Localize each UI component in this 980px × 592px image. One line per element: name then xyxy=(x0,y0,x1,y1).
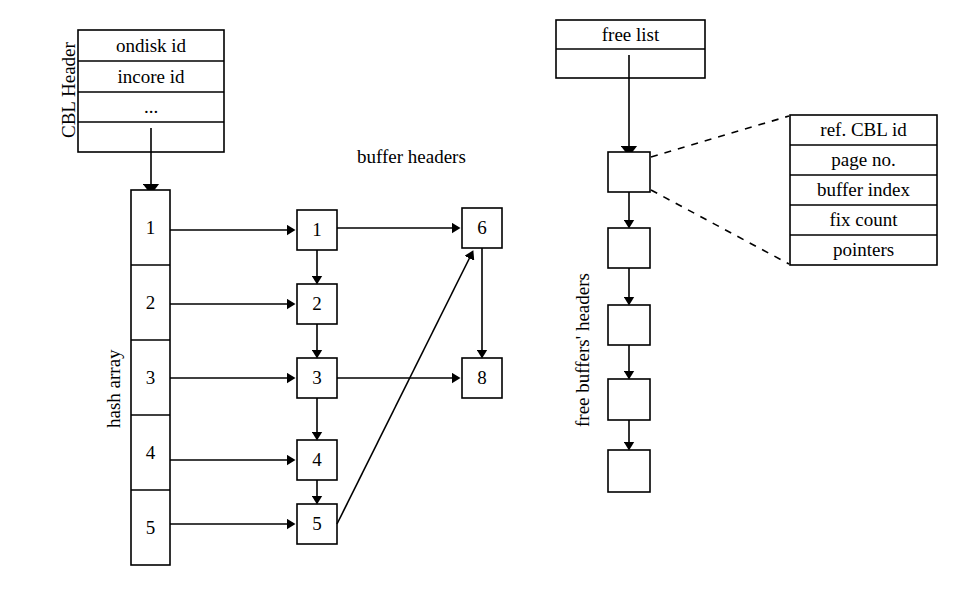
free-buffer-node-3 xyxy=(608,305,650,345)
buffer-detail-row-fix-count: fix count xyxy=(790,205,937,235)
free-list-pointer-row xyxy=(556,49,705,78)
hash-to-buffer-arrows xyxy=(170,230,288,524)
buffer-header-node-2: 2 xyxy=(297,284,337,324)
hash-array-cell-4: 4 xyxy=(131,415,170,490)
buffer-detail-row-ref-cbl-id: ref. CBL id xyxy=(790,115,937,145)
free-list-title: free list xyxy=(556,20,705,49)
buffer-headers-section-label: buffer headers xyxy=(357,146,466,168)
free-buffers-headers-side-label: free buffers' headers xyxy=(572,273,594,427)
cbl-header-side-label: CBL Header xyxy=(58,42,80,138)
buffer-header-node-8: 8 xyxy=(462,358,502,398)
hash-array-cell-5: 5 xyxy=(131,490,170,565)
cbl-header-row-incore-id: incore id xyxy=(78,61,224,92)
cbl-header-row-ellipsis: ... xyxy=(78,92,224,122)
buffer-detail-row-page-no: page no. xyxy=(790,145,937,175)
hash-array-cell-1: 1 xyxy=(131,190,170,265)
free-buffer-node-1 xyxy=(608,152,650,192)
buffer-header-node-4: 4 xyxy=(297,440,337,480)
hash-array-cell-3: 3 xyxy=(131,340,170,415)
diagram-canvas: CBL Header ondisk id incore id ... hash … xyxy=(0,0,980,592)
buffer-header-node-1: 1 xyxy=(297,210,337,250)
hash-array-cell-2: 2 xyxy=(131,265,170,340)
cbl-header-row-ondisk-id: ondisk id xyxy=(78,30,224,61)
buffer-detail-row-pointers: pointers xyxy=(790,235,937,265)
buffer-detail-row-buffer-index: buffer index xyxy=(790,175,937,205)
buffer-header-node-5: 5 xyxy=(297,504,337,544)
arrow-node5-to-node6 xyxy=(337,257,470,524)
detail-callout-lines xyxy=(651,116,789,264)
free-buffer-node-5 xyxy=(608,450,650,492)
buffer-header-node-6: 6 xyxy=(462,208,502,248)
free-buffer-node-4 xyxy=(608,379,650,420)
buffer-header-node-3: 3 xyxy=(297,358,337,398)
hash-array-side-label: hash array xyxy=(103,349,125,428)
cbl-header-row-pointer xyxy=(78,122,224,152)
free-buffer-node-2 xyxy=(608,228,650,268)
